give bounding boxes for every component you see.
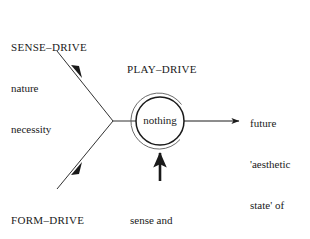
node-sense-drive: SENSE–DRIVE nature necessity: [11, 13, 87, 164]
sense-drive-heading: SENSE–DRIVE: [11, 41, 87, 55]
outcome-line-2: 'aesthetic: [250, 158, 290, 172]
cancellation-line-1: sense and: [130, 214, 179, 228]
node-outcome: future 'aesthetic state' of society: [250, 89, 290, 239]
form-drive-heading: FORM–DRIVE: [11, 214, 84, 228]
sense-drive-line-1: nature: [11, 82, 87, 96]
nothing-label: nothing: [136, 114, 184, 126]
sense-drive-line-2: necessity: [11, 123, 87, 137]
outcome-line-1: future: [250, 117, 290, 131]
outcome-line-3: state' of: [250, 199, 290, 213]
diagram-canvas: SENSE–DRIVE nature necessity FORM–DRIVE …: [0, 0, 310, 239]
node-cancellation: sense and form–drive cancelled: [130, 186, 179, 239]
play-drive-heading: PLAY–DRIVE: [127, 63, 197, 75]
node-form-drive: FORM–DRIVE reason freedom: [11, 186, 84, 239]
